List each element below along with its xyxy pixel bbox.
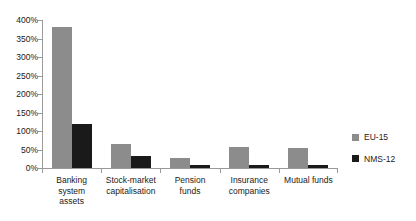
y-tick-label: 0% bbox=[4, 164, 38, 173]
x-tick bbox=[279, 168, 280, 173]
x-tick-label-line: Stock-market bbox=[103, 175, 158, 186]
x-tick-label-line: Pension bbox=[162, 175, 217, 186]
bar-group bbox=[279, 20, 338, 168]
x-tick bbox=[42, 168, 43, 173]
y-tick-label: 100% bbox=[4, 127, 38, 136]
bar-eu15 bbox=[111, 144, 131, 168]
x-tick-label: Mutual funds bbox=[279, 175, 338, 207]
x-tick bbox=[337, 168, 338, 173]
y-tick-label: 300% bbox=[4, 53, 38, 62]
bar-chart: 0%50%100%150%200%250%300%350%400% Bankin… bbox=[0, 0, 416, 221]
legend-label: NMS-12 bbox=[364, 155, 395, 164]
bar-group bbox=[42, 20, 101, 168]
x-tick-label-line: funds bbox=[162, 186, 217, 197]
bar-nms12 bbox=[72, 124, 92, 168]
bar-eu15 bbox=[52, 27, 72, 168]
x-tick-label-line: companies bbox=[222, 186, 277, 197]
y-tick-label: 400% bbox=[4, 16, 38, 25]
legend-item[interactable]: NMS-12 bbox=[352, 155, 414, 164]
y-tick-label: 200% bbox=[4, 90, 38, 99]
x-axis-ticks bbox=[42, 168, 338, 173]
x-tick bbox=[220, 168, 221, 173]
legend-label: EU-15 bbox=[364, 133, 388, 142]
bar-group bbox=[160, 20, 219, 168]
x-tick-label: Bankingsystemassets bbox=[42, 175, 101, 207]
bar-eu15 bbox=[229, 147, 249, 168]
x-tick-label-line: Insurance bbox=[222, 175, 277, 186]
y-tick-label: 150% bbox=[4, 109, 38, 118]
x-axis-labels: BankingsystemassetsStock-marketcapitalis… bbox=[42, 175, 338, 207]
x-tick bbox=[160, 168, 161, 173]
y-tick-label: 350% bbox=[4, 35, 38, 44]
x-tick-label-line: assets bbox=[44, 196, 99, 207]
x-tick bbox=[101, 168, 102, 173]
bar-group bbox=[220, 20, 279, 168]
x-tick-label: Pensionfunds bbox=[160, 175, 219, 207]
bar-group bbox=[101, 20, 160, 168]
x-tick-label-line: Mutual funds bbox=[281, 175, 336, 186]
y-tick-label: 50% bbox=[4, 146, 38, 155]
x-tick-label: Stock-marketcapitalisation bbox=[101, 175, 160, 207]
legend-swatch-icon bbox=[352, 134, 359, 141]
x-tick-label-line: capitalisation bbox=[103, 186, 158, 197]
x-tick-label-line: system bbox=[44, 186, 99, 197]
bar-nms12 bbox=[131, 156, 151, 168]
bar-eu15 bbox=[170, 158, 190, 168]
legend-swatch-icon bbox=[352, 155, 359, 162]
x-tick-label: Insurancecompanies bbox=[220, 175, 279, 207]
bar-groups bbox=[42, 20, 338, 168]
chart-legend: EU-15NMS-12 bbox=[352, 133, 414, 176]
bar-eu15 bbox=[288, 148, 308, 168]
x-tick-label-line: Banking bbox=[44, 175, 99, 186]
y-tick-label: 250% bbox=[4, 72, 38, 81]
y-axis-labels: 0%50%100%150%200%250%300%350%400% bbox=[0, 0, 38, 221]
legend-item[interactable]: EU-15 bbox=[352, 133, 414, 142]
